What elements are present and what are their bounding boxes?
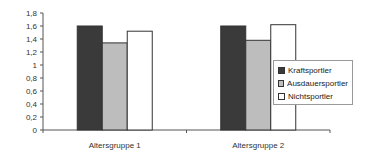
category-label: Altersgruppe 2 [232,141,285,150]
bar-kraftsportler [221,26,246,130]
y-tick-label: 0,6 [26,87,38,96]
bar-ausdauersportler [246,40,271,130]
y-tick-label: 0,2 [26,113,38,122]
legend-label: Nichtsportler [288,92,333,101]
legend-item: Nichtsportler [278,90,348,103]
y-tick-label: 1,2 [26,48,38,57]
y-tick-label: 1,4 [26,35,38,44]
legend-swatch [278,80,284,87]
x-axis-labels: Altersgruppe 1Altersgruppe 2 [89,141,285,150]
legend: KraftsportlerAusdauersportlerNichtsportl… [273,60,353,105]
legend-label: Kraftsportler [288,66,332,75]
bar-nichtsportler [127,31,152,130]
y-tick-label: 1,8 [26,9,38,18]
bar-kraftsportler [77,26,102,130]
legend-swatch [278,93,285,100]
y-tick-label: 1 [33,61,38,70]
y-tick-label: 1,6 [26,22,38,31]
legend-label: Ausdauersportler [287,79,348,88]
legend-swatch [278,67,285,74]
y-tick-label: 0 [33,126,38,135]
bar-ausdauersportler [102,43,127,130]
y-tick-label: 0,4 [26,100,38,109]
bars [77,25,296,130]
legend-item: Kraftsportler [278,64,348,77]
category-label: Altersgruppe 1 [89,141,142,150]
legend-item: Ausdauersportler [278,77,348,90]
y-tick-label: 0,8 [26,74,38,83]
